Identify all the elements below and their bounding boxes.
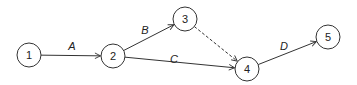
arrow-icon bbox=[41, 55, 101, 56]
node-label: 3 bbox=[182, 13, 188, 25]
arrow-icon bbox=[124, 25, 174, 51]
arrow-icon bbox=[125, 57, 235, 68]
network-diagram: ABCD 12345 bbox=[0, 0, 357, 85]
edge-label-b: B bbox=[141, 24, 148, 36]
edge-2-4 bbox=[125, 57, 235, 68]
edge-labels: ABCD bbox=[67, 24, 288, 65]
edge-label-a: A bbox=[67, 40, 75, 52]
edges bbox=[41, 25, 316, 68]
node-1: 1 bbox=[17, 43, 41, 67]
edge-3-4-dummy bbox=[194, 27, 237, 62]
node-3: 3 bbox=[173, 7, 197, 31]
node-label: 5 bbox=[325, 31, 331, 43]
node-2: 2 bbox=[101, 44, 125, 68]
edge-label-c: C bbox=[170, 53, 178, 65]
edge-2-3 bbox=[124, 25, 174, 51]
nodes: 12345 bbox=[17, 7, 340, 81]
edge-label-d: D bbox=[280, 40, 288, 52]
edge-1-2 bbox=[41, 55, 101, 56]
node-label: 4 bbox=[244, 63, 250, 75]
arrow-icon bbox=[194, 27, 237, 62]
node-4: 4 bbox=[235, 57, 259, 81]
node-label: 2 bbox=[110, 50, 116, 62]
node-5: 5 bbox=[316, 25, 340, 49]
node-label: 1 bbox=[26, 49, 32, 61]
